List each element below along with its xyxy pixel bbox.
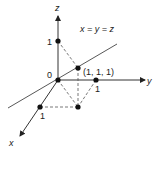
- dash-origin-to-base: [58, 80, 78, 107]
- coordinate-diagram: z y x x = y = z 0 (1, 1, 1) 1 1 1: [0, 0, 156, 175]
- z-tick-label: 1: [47, 37, 52, 47]
- y-tick-label: 1: [95, 84, 100, 94]
- origin-label: 0: [47, 70, 52, 80]
- base-point-1-1-0: [75, 104, 80, 109]
- z-unit-point: [55, 38, 60, 43]
- point-label: (1, 1, 1): [83, 67, 114, 77]
- y-axis-label: y: [146, 76, 152, 86]
- y-unit-point: [93, 77, 98, 82]
- x-axis-label: x: [8, 138, 14, 148]
- z-axis-label: z: [54, 3, 60, 13]
- point-1-1-1: [75, 65, 80, 70]
- origin-point: [55, 77, 60, 82]
- x-tick-label: 1: [40, 111, 45, 121]
- dash-z1-to-point: [58, 41, 78, 68]
- dash-y1-to-base: [78, 80, 96, 107]
- x-unit-point: [37, 104, 42, 109]
- line-label: x = y = z: [79, 24, 115, 34]
